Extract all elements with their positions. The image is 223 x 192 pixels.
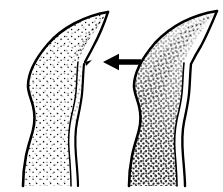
arrow-shaft [116,59,141,65]
figure-canvas: Comparative line drawing of two stippled… [0,0,223,192]
illustration-svg [0,0,223,192]
